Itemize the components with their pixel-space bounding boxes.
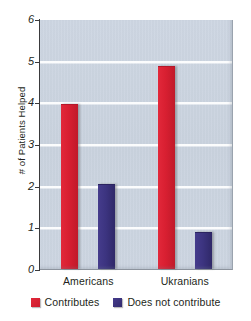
- bar: [61, 104, 78, 269]
- legend-label: Contributes: [45, 296, 100, 308]
- red-square-swatch: [31, 298, 40, 307]
- bar-chart-figure: # of Patients Helped 0123456 AmericansUk…: [0, 0, 251, 321]
- x-axis-category-label: Americans: [38, 275, 138, 287]
- y-axis-tick-label: 1: [0, 222, 34, 233]
- y-axis-tick-label: 0: [0, 264, 34, 275]
- plot-area: [40, 20, 233, 270]
- bar: [98, 184, 115, 269]
- y-axis-tick-label: 6: [0, 14, 34, 25]
- y-axis-tick-label: 5: [0, 56, 34, 67]
- bar: [195, 232, 212, 270]
- y-axis-tick-label: 4: [0, 97, 34, 108]
- blue-square-swatch: [113, 298, 122, 307]
- x-axis-category-label: Ukranians: [135, 275, 235, 287]
- legend-label: Does not contribute: [127, 296, 220, 308]
- y-axis-tick-label: 2: [0, 181, 34, 192]
- chart-legend: ContributesDoes not contribute: [0, 296, 251, 308]
- legend-entry: Contributes: [31, 296, 100, 308]
- legend-entry: Does not contribute: [113, 296, 220, 308]
- bar: [158, 66, 175, 269]
- y-axis-title: # of Patients Helped: [16, 61, 27, 201]
- gridline: [40, 61, 232, 63]
- y-axis-tick-label: 3: [0, 139, 34, 150]
